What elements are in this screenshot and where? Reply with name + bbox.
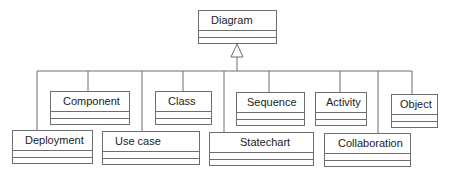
class-box-component: Component bbox=[50, 91, 130, 125]
operations-compartment bbox=[156, 119, 211, 127]
attributes-compartment bbox=[156, 112, 211, 119]
attributes-compartment bbox=[13, 151, 92, 158]
class-box-statechart: Statechart bbox=[209, 132, 314, 166]
class-name: Use case bbox=[103, 132, 199, 152]
class-name: Sequence bbox=[237, 93, 304, 113]
class-name: Object bbox=[392, 95, 437, 115]
class-name: Component bbox=[51, 92, 129, 112]
class-name: Diagram bbox=[199, 11, 276, 31]
operations-compartment bbox=[392, 122, 437, 130]
operations-compartment bbox=[316, 120, 366, 128]
operations-compartment bbox=[210, 160, 313, 168]
class-box-diagram: Diagram bbox=[198, 10, 277, 44]
class-box-object: Object bbox=[391, 94, 438, 128]
attributes-compartment bbox=[51, 112, 129, 119]
operations-compartment bbox=[13, 158, 92, 166]
operations-compartment bbox=[325, 161, 410, 169]
attributes-compartment bbox=[392, 115, 437, 122]
class-name: Collaboration bbox=[325, 134, 410, 154]
class-box-use-case: Use case bbox=[102, 131, 200, 165]
attributes-compartment bbox=[325, 154, 410, 161]
class-box-deployment: Deployment bbox=[12, 130, 93, 164]
class-name: Activity bbox=[316, 93, 366, 113]
attributes-compartment bbox=[103, 152, 199, 159]
class-name: Statechart bbox=[210, 133, 313, 153]
class-box-class: Class bbox=[155, 91, 212, 125]
operations-compartment bbox=[199, 38, 276, 46]
attributes-compartment bbox=[316, 113, 366, 120]
operations-compartment bbox=[103, 159, 199, 167]
operations-compartment bbox=[237, 120, 304, 128]
class-box-activity: Activity bbox=[315, 92, 367, 126]
attributes-compartment bbox=[199, 31, 276, 38]
class-box-sequence: Sequence bbox=[236, 92, 305, 126]
class-name: Deployment bbox=[13, 131, 92, 151]
operations-compartment bbox=[51, 119, 129, 127]
attributes-compartment bbox=[237, 113, 304, 120]
class-name: Class bbox=[156, 92, 211, 112]
attributes-compartment bbox=[210, 153, 313, 160]
class-box-collaboration: Collaboration bbox=[324, 133, 411, 167]
